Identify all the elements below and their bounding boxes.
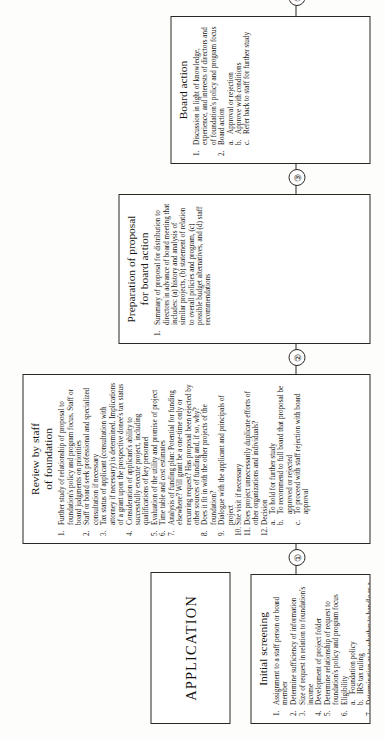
list-item: 2.Board action a.Approval or rejection b… (217, 24, 250, 156)
stage-title-line1: Review by staff (28, 423, 40, 495)
item-number: 7. (167, 526, 175, 536)
stage-title-line2: of foundation (41, 382, 54, 536)
item-number: 1. (192, 146, 200, 156)
sub-item-text: To hold for further study (268, 443, 276, 514)
item-text: Dialogue with the applicant and principa… (217, 395, 233, 525)
list-item: 9.Dialogue with the applicant and princi… (217, 382, 234, 536)
sub-item-text: To proceed with staff rejection with boa… (293, 393, 309, 514)
item-number: 9. (217, 526, 225, 536)
sub-item-text: IRS tax ruling (356, 653, 364, 694)
rotated-page-wrapper: APPLICATION ① ② ③ ④ Initial screening (0, 0, 385, 740)
item-number: 8. (200, 526, 208, 536)
item-text: Decision (260, 499, 268, 525)
sub-item-list: a.Foundation policy b.IRS tax ruling (348, 582, 365, 705)
stage-title-line2: for board action (137, 202, 150, 336)
item-text: Discussion in light of knowledge, experi… (192, 27, 217, 145)
stage-review-by-staff: Review by staff of foundation 1.Further … (22, 374, 370, 544)
item-number: 1. (153, 326, 161, 336)
sub-item-list: a.To hold for further study b.To recomme… (268, 382, 310, 525)
sub-item-text: Refer back to staff for further study (242, 32, 250, 134)
item-text: Does it fit in with the other projects o… (200, 404, 216, 525)
item-number: 6. (158, 526, 166, 536)
item-number: 4. (125, 526, 133, 536)
sub-item-number: b. (356, 700, 364, 705)
connector-circle-3: ③ (288, 169, 305, 186)
item-number: 11. (243, 526, 251, 536)
list-item: 1.Assignment to a staff person or board … (272, 582, 289, 716)
sub-list-item: c.Refer back to staff for further study (242, 24, 250, 145)
list-item: 2.Determine sufficiency of information (289, 582, 297, 716)
item-number: 3. (298, 706, 306, 716)
item-text: Site visit if necessary (234, 464, 242, 525)
sub-list-item: a.To hold for further study (268, 382, 276, 525)
item-text: Eligibility (340, 676, 348, 705)
item-text: Determination as to whether to handle as… (365, 582, 370, 705)
stage-item-list: 1.Discussion in light of knowledge, expe… (192, 24, 251, 156)
item-text: Time table and cost estimates (158, 440, 166, 525)
stage-initial-screening: Initial screening 1.Assignment to a staf… (250, 574, 370, 724)
sub-list-item: b.Approve with conditions (234, 24, 242, 145)
item-text: Assignment to a staff person or board me… (272, 597, 288, 705)
item-number: 12. (260, 526, 268, 536)
stage-item-list: 1.Assignment to a staff person or board … (272, 582, 370, 716)
item-number: 6. (340, 706, 348, 716)
stage-title-line1: Initial screening (256, 612, 268, 686)
stage-item-list: 1.Summary of proposal for distribution t… (153, 202, 211, 336)
sub-item-text: To recommend to full board that proposal… (276, 386, 292, 514)
item-text: Size of request in relation to foundatio… (298, 587, 314, 705)
connector-line (295, 6, 296, 16)
sub-item-number: a. (348, 700, 356, 705)
item-number: 2. (289, 706, 297, 716)
stage-item-list: 1.Further study of relationship of propo… (57, 382, 309, 536)
item-number: 4. (314, 706, 322, 716)
stage-board-action: Board action 1.Discussion in light of kn… (170, 16, 370, 164)
sub-item-number: a. (268, 520, 276, 525)
list-item: 8.Does it fit in with the other projects… (200, 382, 217, 536)
stage-title-line1: Board action (176, 61, 188, 120)
list-item: 5.Determine relationship of request to f… (323, 582, 340, 716)
item-text: Determine sufficiency of information (289, 598, 297, 705)
stage-preparation-of-proposal: Preparation of proposal for board action… (118, 194, 370, 344)
list-item: 6.Time table and cost estimates (158, 382, 166, 536)
stage-title: Board action (176, 24, 189, 156)
item-text: Staff or board seek professional and spe… (82, 388, 98, 525)
item-text: Does project unnecessarily duplicate eff… (243, 391, 259, 525)
list-item: 7.Analysis of funding plan: Potential fo… (167, 382, 200, 536)
item-text: Development of project folder (314, 618, 322, 705)
list-item: 4.Development of project folder (314, 582, 322, 716)
application-label-box: APPLICATION (150, 572, 230, 724)
application-label: APPLICATION (182, 595, 199, 701)
sub-item-number: b. (276, 520, 284, 525)
list-item: 2.Staff or board seek professional and s… (82, 382, 99, 536)
diagram-sheet: APPLICATION ① ② ③ ④ Initial screening (0, 0, 385, 740)
sub-list-item: b.IRS tax ruling (356, 582, 364, 705)
sub-list-item: c.To proceed with staff rejection with b… (293, 382, 310, 525)
item-number: 10. (234, 526, 242, 536)
sub-item-number: a. (226, 140, 234, 145)
sub-item-text: Approval or rejection (226, 72, 234, 134)
list-item: 7.Determination as to whether to handle … (365, 582, 370, 716)
stage-title: Preparation of proposal for board action (124, 202, 150, 336)
sub-item-number: c. (293, 520, 301, 525)
list-item: 10.Site visit if necessary (234, 382, 242, 536)
stage-title-line1: Preparation of proposal (124, 216, 136, 323)
sub-list-item: a.Foundation policy (348, 582, 356, 705)
list-item: 11.Does project unnecessarily duplicate … (243, 382, 260, 536)
list-item: 3.Tax status of applicant (consultation … (99, 382, 124, 536)
item-number: 3. (99, 526, 107, 536)
list-item: 1.Discussion in light of knowledge, expe… (192, 24, 217, 156)
connector-glyph: ③ (292, 174, 302, 182)
sub-item-text: Approve with conditions (234, 63, 242, 134)
item-number: 1. (272, 706, 280, 716)
stage-title: Initial screening (256, 582, 269, 716)
sub-list-item: b.To recommend to full board that propos… (276, 382, 293, 525)
list-item: 1.Summary of proposal for distribution t… (153, 202, 211, 336)
item-number: 1. (57, 526, 65, 536)
item-text: Tax status of applicant (consultation wi… (99, 383, 124, 525)
item-text: Further study of relationship of proposa… (57, 389, 82, 525)
item-number: 2. (82, 526, 90, 536)
connector-line (295, 565, 296, 574)
sub-list-item: a.Approval or rejection (226, 24, 234, 145)
list-item: 4.Consideration of applicant's ability t… (125, 382, 150, 536)
stage-title: Review by staff of foundation (28, 382, 54, 536)
